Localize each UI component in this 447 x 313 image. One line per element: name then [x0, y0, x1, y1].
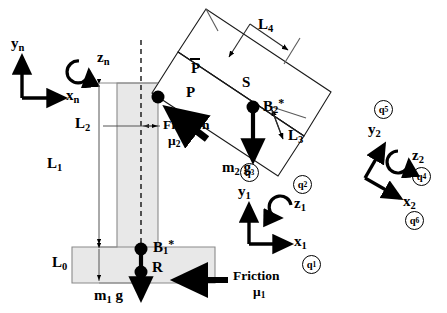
node-R — [135, 266, 148, 279]
node-S — [247, 101, 260, 114]
frame-n-rotation-arc — [67, 61, 89, 83]
force-label-m2g: m2 g — [222, 160, 251, 177]
coord-badge-q2: q2 — [293, 175, 312, 194]
point-label-B2-star: B2* — [263, 97, 284, 116]
axis-label-y1: y1 — [238, 184, 251, 201]
coord-badge-q6: q6 — [405, 211, 424, 230]
point-label-P: P — [186, 85, 195, 100]
dimension-label-L1: L1 — [47, 156, 62, 173]
body2-rotated-bar — [152, 9, 331, 176]
frame-1-rotation-arc — [269, 196, 291, 218]
force-label-m1g: m1 g — [94, 288, 123, 305]
coord-badge-q5: q5 — [374, 100, 393, 119]
point-label-S: S — [242, 75, 250, 90]
axis-label-x2: x2 — [403, 194, 416, 211]
dimension-label-L3: L3 — [288, 128, 303, 145]
node-B1-star — [135, 243, 148, 256]
node-P — [152, 91, 165, 104]
axis-label-z2: z2 — [412, 148, 424, 165]
point-label-R: R — [152, 260, 163, 275]
coord-badge-q4: q4 — [412, 167, 431, 186]
frame-n-axes — [22, 57, 64, 98]
axis-label-xn: xn — [66, 88, 79, 105]
diagram-canvas: yn xn zn y1 x1 z1 y2 x2 z2 q1 q2 q3 q4 q… — [0, 0, 447, 313]
point-label-B1-star: B1* — [153, 238, 174, 257]
force-label-friction-1: Friction — [233, 269, 280, 283]
frame-2-rotation-arc — [387, 151, 409, 173]
dimension-label-L2: L2 — [75, 116, 90, 133]
axis-label-zn: zn — [97, 50, 110, 67]
force-label-friction-2: Friction — [163, 118, 210, 132]
axis-label-x1: x1 — [294, 234, 307, 251]
point-label-P-bar: P — [191, 61, 200, 76]
force-label-mu1: μ1 — [253, 285, 265, 301]
axis-label-z1: z1 — [294, 196, 306, 213]
coord-badge-q1: q1 — [302, 255, 321, 274]
axis-label-yn: yn — [11, 36, 24, 53]
dimension-label-L4: L4 — [258, 17, 273, 34]
dimension-label-L0: L0 — [52, 255, 67, 272]
axis-label-y2: y2 — [368, 122, 381, 139]
force-label-mu2: μ2 — [168, 134, 180, 150]
